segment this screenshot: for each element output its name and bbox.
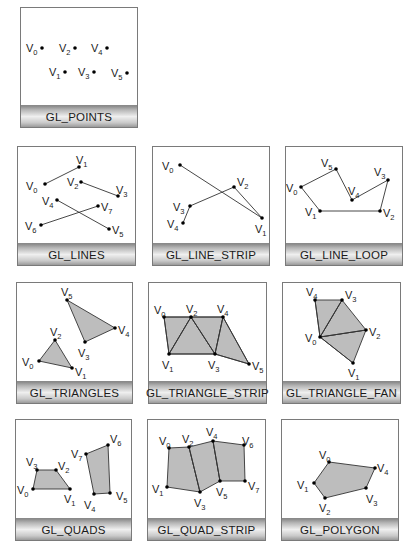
vertex-dot [68,487,72,491]
vertex-label: V3 [26,456,38,471]
vertex-dot [39,223,43,227]
vertex-label: V2 [67,176,79,191]
vertex-label: V1 [297,479,309,494]
vertex-label: V2 [369,326,381,341]
panel-points: V0V2V4V1V3V5GL_POINTS [20,7,138,128]
vertex-label: V0 [286,182,298,197]
vertex-label: V1 [255,223,267,238]
primitive-edge [81,182,118,196]
vertex-dot [318,209,322,213]
vertex-label: V0 [159,435,171,450]
vertex-label: V4 [206,426,218,441]
vertex-label: V1 [75,366,87,381]
vertex-label: V3 [208,359,220,374]
panel-line-loop: V0V1V2V3V4V5GL_LINE_LOOP [285,146,403,266]
primitive-edge [180,165,262,218]
vertex-label: V5 [321,157,333,172]
vertex-label: V2 [319,502,331,517]
vertex-dot [213,352,217,356]
vertex-label: V0 [162,160,174,175]
vertex-label: V0 [26,180,38,195]
panel-polygon: V0V1V2V3V4GL_POLYGON [281,419,399,541]
vertex-label: V0 [305,332,317,347]
primitive-edge [190,187,234,206]
vertex-label: V0 [154,304,166,319]
vertex-dot [340,298,344,302]
panel-lines: V0V1V2V3V4V5V6V7GL_LINES [17,146,136,266]
vertex-dot [107,227,111,231]
vertex-dot [178,163,182,167]
vertex-label: V1 [152,483,164,498]
vertex-dot [73,46,77,50]
vertex-dot [108,491,112,495]
vertex-dot [105,46,109,50]
vertex-dot [40,46,44,50]
vertex-label: V3 [366,493,378,508]
primitive-face [86,445,110,494]
vertex-label: V0 [319,449,331,464]
primitive-label: GL_QUADS [16,518,131,540]
panel-quad-strip: V0V1V2V3V4V5V6V7GL_QUAD_STRIP [147,419,266,541]
vertex-label: V5 [116,490,128,505]
panel-triangle-strip: V0V1V2V3V4V5GL_TRIANGLE_STRIP [148,282,267,404]
vertex-dot [386,178,390,182]
vertex-dot [43,182,47,186]
vertex-label: V3 [194,497,206,512]
vertex-label: V1 [49,66,61,81]
primitive-face [67,300,115,342]
vertex-label: V0 [22,356,34,371]
panel-quads: V0V1V2V3V4V5V6V7GL_QUADS [15,419,132,541]
vertex-label: V3 [78,347,90,362]
primitive-label: GL_LINE_STRIP [153,243,269,265]
vertex-label: V0 [26,42,38,57]
vertex-dot [351,361,355,365]
vertex-dot [37,359,41,363]
vertex-label: V2 [58,460,70,475]
vertex-dot [364,328,368,332]
vertex-dot [247,362,251,366]
vertex-label: V4 [91,42,103,57]
primitive-label: GL_POLYGON [282,518,398,540]
vertex-label: V6 [25,220,37,235]
vertex-label: V1 [64,493,76,508]
vertex-dot [378,209,382,213]
vertex-dot [96,204,100,208]
vertex-dot [188,204,192,208]
vertex-label: V6 [110,433,122,448]
vertex-label: V7 [101,201,113,216]
vertex-label: V3 [78,66,90,81]
vertex-label: V4 [167,218,179,233]
vertex-dot [92,492,96,496]
primitive-label: GL_LINES [18,243,135,265]
vertex-label: V5 [216,486,228,501]
vertex-label: V7 [71,448,83,463]
vertex-dot [79,180,83,184]
vertex-dot [323,496,327,500]
primitive-label: GL_TRIANGLE_STRIP [149,381,266,403]
vertex-dot [218,479,222,483]
vertex-dot [243,479,247,483]
vertex-label: V0 [17,484,29,499]
vertex-dot [113,326,117,330]
vertex-dot [92,70,96,74]
vertex-label: V5 [252,360,264,375]
vertex-label: V4 [377,462,389,477]
panel-line-strip: V0V1V2V3V4GL_LINE_STRIP [152,146,270,266]
vertex-dot [83,340,87,344]
vertex-dot [53,338,57,342]
vertex-dot [63,70,67,74]
panel-triangle-fan: V0V1V2V3V4GL_TRIANGLE_FAN [282,282,401,404]
primitive-label: GL_TRIANGLES [17,381,132,403]
primitive-label: GL_TRIANGLE_FAN [283,381,400,403]
vertex-dot [334,167,338,171]
vertex-label: V3 [173,201,185,216]
vertex-dot [70,366,74,370]
vertex-dot [165,485,169,489]
vertex-label: V4 [348,185,360,200]
primitive-label: GL_QUAD_STRIP [148,518,265,540]
vertex-dot [125,71,129,75]
vertex-dot [181,221,185,225]
vertex-label: V5 [112,224,124,239]
primitive-label: GL_LINE_LOOP [286,243,402,265]
vertex-label: V1 [305,206,317,221]
